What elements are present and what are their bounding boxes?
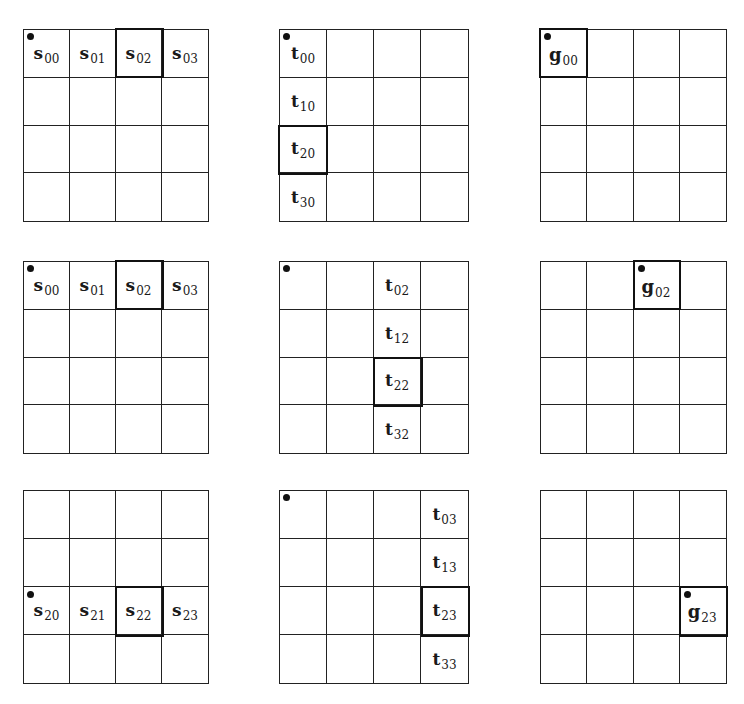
cell-label-t30: t30 <box>291 189 315 206</box>
label-base: s <box>80 43 90 63</box>
matrix-cell-32 <box>116 635 162 683</box>
grid-panel-s-row0: s00s01s02s03 <box>23 29 209 222</box>
label-subscript: 03 <box>441 513 456 527</box>
matrix-cell-30 <box>280 635 327 683</box>
matrix-grid: s00s01s02s03 <box>23 29 209 222</box>
origin-dot-icon <box>638 265 645 272</box>
matrix-cell-23 <box>421 126 468 174</box>
cell-label-t13: t13 <box>432 554 456 571</box>
matrix-cell-12 <box>116 539 162 587</box>
matrix-cell-12 <box>634 310 680 358</box>
matrix-grid: t03t13t23t33 <box>279 490 469 684</box>
matrix-cell-21 <box>70 358 116 406</box>
cell-label-t02: t02 <box>385 277 409 294</box>
matrix-grid: s00s01s02s03 <box>23 261 209 454</box>
matrix-grid: g23 <box>540 490 727 684</box>
matrix-cell-20 <box>541 358 587 406</box>
label-base: t <box>385 323 393 343</box>
matrix-cell-11 <box>587 78 633 126</box>
matrix-cell-21 <box>587 126 633 174</box>
cell-label-t03: t03 <box>432 506 456 523</box>
matrix-cell-11 <box>587 310 633 358</box>
matrix-cell-21 <box>587 587 633 635</box>
matrix-cell-02: s02 <box>116 262 162 310</box>
cell-label-s00: s00 <box>34 45 60 62</box>
matrix-cell-03 <box>680 262 726 310</box>
matrix-cell-20 <box>280 358 327 406</box>
matrix-cell-21 <box>70 126 116 174</box>
matrix-cell-02: t02 <box>374 262 421 310</box>
matrix-cell-00 <box>24 491 70 539</box>
cell-label-t32: t32 <box>385 421 409 438</box>
matrix-cell-33: t33 <box>421 635 468 683</box>
matrix-cell-21 <box>327 587 374 635</box>
matrix-cell-10 <box>541 78 587 126</box>
label-subscript: 02 <box>136 284 151 298</box>
label-base: t <box>291 91 299 111</box>
matrix-cell-01: s01 <box>70 30 116 78</box>
matrix-cell-20 <box>541 587 587 635</box>
matrix-cell-32: t32 <box>374 405 421 453</box>
matrix-cell-23: t23 <box>421 587 468 635</box>
grid-panel-s-row0-b: s00s01s02s03 <box>23 261 209 454</box>
matrix-cell-03 <box>421 30 468 78</box>
label-subscript: 20 <box>44 609 59 623</box>
matrix-cell-11 <box>70 539 116 587</box>
label-subscript: 00 <box>44 52 59 66</box>
matrix-cell-01 <box>70 491 116 539</box>
label-base: t <box>291 138 299 158</box>
label-subscript: 21 <box>90 609 105 623</box>
matrix-cell-11 <box>587 539 633 587</box>
cell-label-t33: t33 <box>432 651 456 668</box>
label-subscript: 02 <box>655 286 670 300</box>
matrix-cell-31 <box>327 173 374 221</box>
matrix-cell-02 <box>374 30 421 78</box>
grid-panel-g-00: g00 <box>540 29 727 222</box>
matrix-cell-03 <box>680 30 726 78</box>
matrix-cell-30 <box>280 405 327 453</box>
matrix-grid: g00 <box>540 29 727 222</box>
label-base: t <box>291 43 299 63</box>
matrix-cell-22: s22 <box>116 587 162 635</box>
label-base: s <box>34 43 44 63</box>
matrix-cell-32 <box>116 173 162 221</box>
matrix-cell-20: t20 <box>280 126 327 174</box>
matrix-cell-10 <box>541 539 587 587</box>
matrix-cell-21 <box>327 358 374 406</box>
label-base: s <box>126 600 136 620</box>
label-subscript: 01 <box>90 284 105 298</box>
matrix-grid: t02t12t22t32 <box>279 261 469 454</box>
label-subscript: 12 <box>394 332 409 346</box>
label-base: g <box>549 44 562 65</box>
cell-label-s01: s01 <box>80 45 106 62</box>
grid-panel-t-col0: t00t10t20t30 <box>279 29 469 222</box>
matrix-cell-01: s01 <box>70 262 116 310</box>
cell-label-g23: g23 <box>688 603 717 621</box>
matrix-cell-33 <box>162 405 208 453</box>
cell-label-t20: t20 <box>291 140 315 157</box>
matrix-cell-13 <box>680 539 726 587</box>
cell-label-s01: s01 <box>80 277 106 294</box>
matrix-cell-12 <box>374 78 421 126</box>
matrix-cell-23 <box>680 126 726 174</box>
matrix-cell-31 <box>587 173 633 221</box>
label-subscript: 13 <box>441 561 456 575</box>
matrix-cell-32 <box>374 635 421 683</box>
matrix-cell-02: s02 <box>116 30 162 78</box>
cell-label-s23: s23 <box>172 602 198 619</box>
matrix-cell-21: s21 <box>70 587 116 635</box>
matrix-cell-22 <box>116 358 162 406</box>
matrix-cell-23 <box>421 358 468 406</box>
cell-label-t00: t00 <box>291 45 315 62</box>
label-base: s <box>172 275 182 295</box>
matrix-cell-03 <box>680 491 726 539</box>
matrix-cell-32 <box>374 173 421 221</box>
matrix-cell-30 <box>24 405 70 453</box>
cell-label-s20: s20 <box>34 602 60 619</box>
label-base: t <box>385 419 393 439</box>
matrix-cell-31 <box>327 405 374 453</box>
cell-label-s00: s00 <box>34 277 60 294</box>
matrix-cell-01 <box>587 262 633 310</box>
matrix-cell-22 <box>634 358 680 406</box>
label-subscript: 30 <box>300 196 315 210</box>
